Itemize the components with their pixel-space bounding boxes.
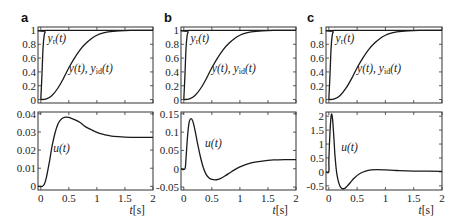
x-tick-label: 1 — [383, 192, 389, 204]
y-tick-label: 0.1 — [165, 126, 179, 138]
y-tick-label: 0.02 — [17, 144, 36, 156]
x-tick-label: 1 — [94, 192, 100, 204]
x-tick-label: 0 — [326, 192, 332, 204]
panel-b: b00.20.40.60.81yr(t)y(t), yid(t)-0.0500.… — [156, 10, 299, 216]
x-axis-label: t[s] — [418, 204, 433, 216]
x-tick-label: 2 — [293, 192, 299, 204]
x-tick-label: 0.5 — [62, 192, 76, 204]
y-tick-label: 0 — [319, 166, 325, 178]
x-tick-label: 2 — [150, 192, 156, 204]
y-tick-label: 0.6 — [310, 52, 324, 64]
y-tick-label: 1 — [319, 24, 325, 36]
x-tick-label: 2 — [439, 192, 445, 204]
subplot-b-bottom: -0.0500.050.10.15u(t)00.511.52t[s] — [156, 108, 299, 216]
annotation-y: y(t), yid(t) — [68, 62, 113, 77]
annotation-u: u(t) — [341, 141, 358, 154]
annotation-y: y(t), yid(t) — [211, 62, 256, 77]
panel-label: c — [307, 10, 314, 25]
subplot-a-top: 00.20.40.60.81yr(t)y(t), yid(t) — [22, 24, 153, 105]
y-tick-label: 2 — [319, 110, 325, 122]
x-tick-label: 0.5 — [350, 192, 364, 204]
y-tick-label: 0 — [319, 94, 325, 106]
subplot-a-bottom: 00.010.020.030.04u(t)00.511.52t[s] — [17, 108, 156, 216]
x-tick-label: 0 — [38, 192, 44, 204]
annotation-u: u(t) — [205, 137, 222, 150]
series-line — [181, 119, 296, 180]
panel-a: a00.20.40.60.81yr(t)y(t), yid(t)00.010.0… — [17, 10, 156, 216]
y-tick-label: 0.4 — [165, 66, 179, 78]
y-tick-label: -0.05 — [156, 181, 179, 193]
y-tick-label: 0 — [174, 163, 180, 175]
y-tick-label: 1 — [174, 24, 180, 36]
subplot-c-bottom: -0.500.511.52u(t)00.511.52t[s] — [307, 110, 445, 216]
y-tick-label: 0.2 — [310, 80, 324, 92]
y-tick-label: 1 — [319, 138, 325, 150]
y-tick-label: 0.8 — [165, 38, 179, 50]
y-tick-label: 0.03 — [17, 126, 37, 138]
y-tick-label: 0.2 — [165, 80, 179, 92]
axes-frame — [181, 112, 296, 190]
subplot-b-top: 00.20.40.60.81yr(t)y(t), yid(t) — [165, 24, 296, 105]
annotation-u: u(t) — [53, 142, 70, 155]
x-tick-label: 1 — [237, 192, 243, 204]
y-tick-label: 0.8 — [22, 38, 36, 50]
panel-label: b — [164, 10, 172, 25]
y-tick-label: 0 — [174, 94, 180, 106]
annotation-yr: yr(t) — [47, 32, 67, 47]
subplot-c-top: 00.20.40.60.81yr(t)y(t), yid(t) — [310, 24, 442, 105]
y-tick-label: 0 — [31, 180, 37, 192]
y-tick-label: 0.05 — [160, 144, 180, 156]
y-tick-label: 0.04 — [17, 108, 37, 120]
annotation-yr: yr(t) — [190, 32, 210, 47]
y-tick-label: 0.5 — [310, 152, 324, 164]
y-tick-label: -0.5 — [307, 180, 325, 192]
y-tick-label: 0.4 — [310, 66, 324, 78]
x-tick-label: 0.5 — [205, 192, 219, 204]
y-tick-label: 1 — [31, 24, 37, 36]
x-tick-label: 1.5 — [261, 192, 275, 204]
x-tick-label: 0 — [181, 192, 187, 204]
annotation-yr: yr(t) — [335, 32, 355, 47]
y-tick-label: 0.4 — [22, 66, 36, 78]
y-tick-label: 0.6 — [165, 52, 179, 64]
y-tick-label: 0.8 — [310, 38, 324, 50]
x-axis-label: t[s] — [273, 204, 288, 216]
y-tick-label: 0.01 — [17, 162, 36, 174]
y-tick-label: 1.5 — [310, 124, 324, 136]
figure: a00.20.40.60.81yr(t)y(t), yid(t)00.010.0… — [0, 0, 459, 224]
x-tick-label: 1.5 — [118, 192, 132, 204]
panel-label: a — [21, 10, 29, 25]
x-axis-label: t[s] — [130, 204, 145, 216]
y-tick-label: 0.15 — [160, 108, 180, 120]
x-tick-label: 1.5 — [407, 192, 421, 204]
annotation-y: y(t), yid(t) — [356, 62, 401, 77]
y-tick-label: 0 — [31, 94, 37, 106]
panel-c: c00.20.40.60.81yr(t)y(t), yid(t)-0.500.5… — [307, 10, 445, 216]
y-tick-label: 0.6 — [22, 52, 36, 64]
y-tick-label: 0.2 — [22, 80, 36, 92]
